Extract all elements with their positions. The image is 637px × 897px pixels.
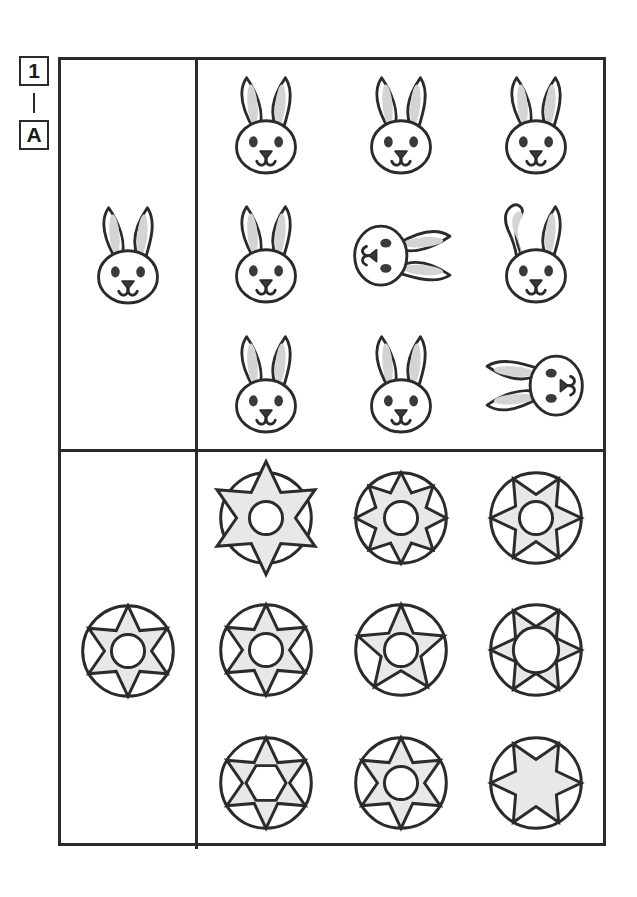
bunny-reference-cell: [61, 60, 198, 449]
medallion-reference-cell: [61, 452, 198, 849]
reference-bunny: [69, 196, 187, 314]
medallion-option-4[interactable]: [198, 584, 333, 716]
medallion-option-3[interactable]: [468, 452, 603, 584]
medallion-option-1[interactable]: [198, 452, 333, 584]
label-separator-dash: [33, 93, 35, 113]
medallion-option-6[interactable]: [468, 584, 603, 716]
bunny-options-grid: [198, 60, 603, 449]
task-letter-box: A: [19, 120, 49, 150]
reference-medallion: [67, 590, 189, 712]
bunny-option-3[interactable]: [468, 60, 603, 190]
label-column: 1 A: [16, 56, 52, 150]
bunny-option-7[interactable]: [198, 319, 333, 449]
medallion-option-9[interactable]: [468, 717, 603, 849]
medallion-option-5[interactable]: [333, 584, 468, 716]
bunny-option-4[interactable]: [198, 190, 333, 320]
task-frame: [58, 57, 606, 846]
bunny-option-1[interactable]: [198, 60, 333, 190]
task-number-box: 1: [19, 56, 49, 86]
medallion-options-grid: [198, 452, 603, 849]
medallion-option-7[interactable]: [198, 717, 333, 849]
star-medallion-panel: [61, 452, 603, 849]
bunny-option-8[interactable]: [333, 319, 468, 449]
task-number-text: 1: [28, 59, 40, 83]
bunny-option-5[interactable]: [333, 190, 468, 320]
medallion-option-8[interactable]: [333, 717, 468, 849]
medallion-option-2[interactable]: [333, 452, 468, 584]
bunny-option-6[interactable]: [468, 190, 603, 320]
bunny-option-9[interactable]: [468, 319, 603, 449]
bunny-option-2[interactable]: [333, 60, 468, 190]
task-letter-text: A: [26, 123, 41, 147]
bunny-face-panel: [61, 60, 603, 452]
